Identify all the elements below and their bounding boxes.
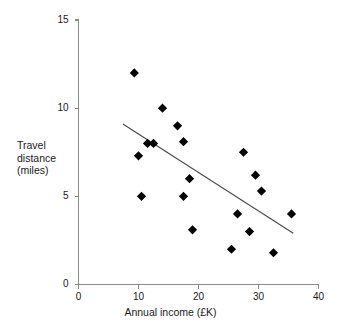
data-point-marker: [173, 121, 182, 130]
y-tick-label: 10: [41, 102, 69, 113]
data-point-marker: [269, 248, 278, 257]
data-point-marker: [137, 192, 146, 201]
y-tick-label: 0: [41, 278, 69, 289]
x-tick-label: 40: [305, 291, 333, 302]
data-point-marker: [239, 148, 248, 157]
data-markers-group: [130, 68, 296, 257]
x-tick-label: 10: [125, 291, 153, 302]
axes-group: [79, 20, 320, 285]
data-point-marker: [251, 171, 260, 180]
y-tick-label: 5: [41, 190, 69, 201]
scatter-plot-figure: Traveldistance(miles) Annual income (£K)…: [0, 0, 341, 333]
y-axis-title-line: Travel: [17, 139, 56, 152]
x-tick-label: 0: [65, 291, 93, 302]
data-point-marker: [257, 186, 266, 195]
data-point-marker: [188, 225, 197, 234]
x-axis-title: Annual income (£K): [0, 306, 341, 319]
data-point-marker: [233, 209, 242, 218]
data-point-marker: [245, 227, 254, 236]
data-point-marker: [134, 151, 143, 160]
data-point-marker: [287, 209, 296, 218]
data-point-marker: [158, 104, 167, 113]
x-tick-label: 20: [185, 291, 213, 302]
data-point-marker: [185, 174, 194, 183]
y-axis-title-line: distance: [17, 152, 56, 165]
y-axis-title-line: (miles): [17, 164, 56, 177]
x-tick-label: 30: [245, 291, 273, 302]
y-tick-label: 15: [41, 14, 69, 25]
y-axis-title: Traveldistance(miles): [17, 139, 56, 177]
data-point-marker: [179, 192, 188, 201]
data-point-marker: [149, 139, 158, 148]
data-point-marker: [179, 137, 188, 146]
data-point-marker: [130, 68, 139, 77]
data-point-marker: [227, 245, 236, 254]
